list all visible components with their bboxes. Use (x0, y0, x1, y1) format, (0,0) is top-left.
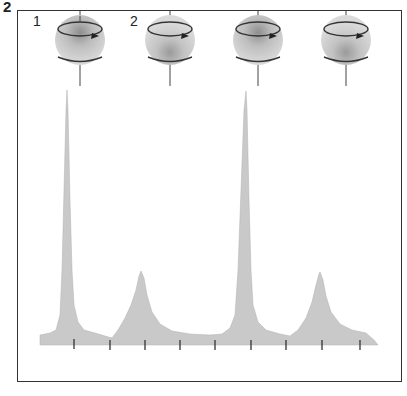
diagram-canvas (0, 0, 407, 396)
sphere-1 (55, 11, 105, 86)
spectrum-area (40, 90, 378, 345)
sphere-3 (233, 11, 283, 86)
sphere-4 (321, 11, 371, 86)
sphere-2 (145, 11, 195, 86)
